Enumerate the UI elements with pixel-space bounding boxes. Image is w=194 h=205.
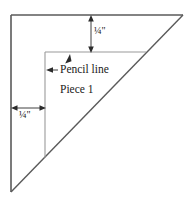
callout-arrowhead-left-icon: [46, 67, 53, 73]
piece-label: Piece 1: [60, 84, 94, 96]
figure-canvas: ¼" ¼" Pencil line Piece 1: [0, 0, 194, 205]
top-seam-allowance-dimension: [88, 15, 94, 53]
arrowhead-left-icon: [11, 105, 18, 111]
left-dimension-label: ¼": [19, 110, 31, 120]
pencil-line-label: Pencil line: [60, 64, 109, 76]
top-dimension-label: ¼": [94, 26, 106, 36]
arrowhead-up-icon: [88, 15, 94, 22]
right-triangle-outline: [11, 15, 183, 192]
triangle-hypotenuse: [11, 15, 183, 192]
